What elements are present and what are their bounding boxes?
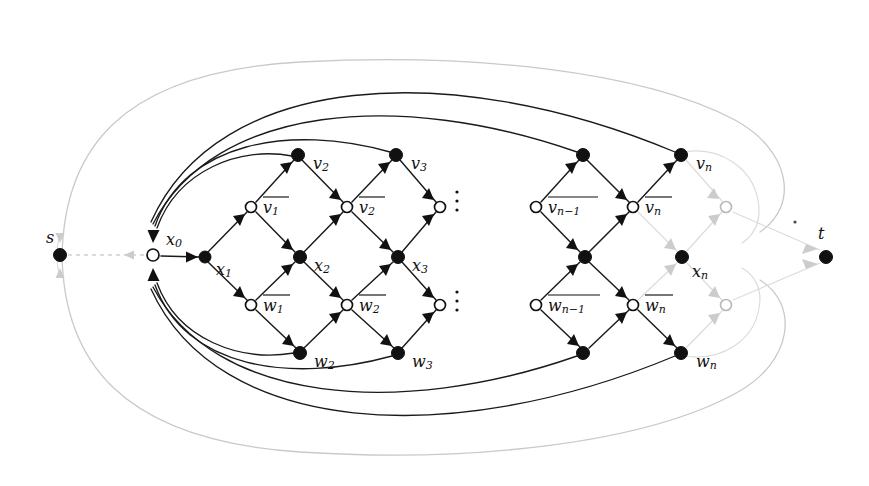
label-wbar1: w1 [263,296,284,317]
stray-dot-mark [793,220,796,223]
label-vbarn: vn [645,198,661,219]
node-vbar1[interactable] [246,202,257,213]
overline-group [263,197,673,295]
node-w-n-minus-1[interactable] [577,347,590,360]
arrowhead-vtail-from-xn [708,214,720,226]
node-wbar-n-minus-1[interactable] [531,300,542,311]
label-v3: v3 [411,154,427,175]
arrowhead-x0-top [148,230,160,243]
labels-group: s x0 x1 v1 w1 v2 x2 w2 [46,154,825,373]
node-x-n-minus-1[interactable] [579,251,592,264]
nodes-group [54,149,833,360]
node-v-n-minus-1[interactable] [577,149,590,162]
arrowhead-vtail-from-vn [707,188,719,199]
node-wbar1[interactable] [246,300,257,311]
arc-w2-to-x0 [157,283,294,355]
node-w-tail[interactable] [721,300,732,311]
edge-vtail-to-t [733,212,820,250]
label-x3: x3 [412,256,428,277]
node-s[interactable] [54,249,67,262]
node-x1[interactable] [199,251,211,263]
label-x1: x1 [216,260,232,281]
label-xn: xn [692,262,708,283]
label-x2: x2 [314,256,330,277]
node-wbar2[interactable] [342,300,353,311]
node-x0[interactable] [147,249,159,261]
node-vbar-n-minus-1[interactable] [531,202,542,213]
label-vbar2: v2 [359,198,375,219]
label-wbar2: w2 [359,296,380,317]
node-v3[interactable] [390,149,403,162]
node-v-tail[interactable] [721,202,732,213]
node-vbar3[interactable] [435,202,446,213]
figure-container: s x0 x1 v1 w1 v2 x2 w2 [0,0,869,486]
arrowhead-vbar3-from-v3 [422,188,434,200]
faint-tail-edges [638,160,820,348]
node-x2[interactable] [294,251,307,264]
envelope-link-wn [684,268,760,357]
ellipsis-upper [455,190,458,211]
node-wbar3[interactable] [435,300,446,311]
node-wbarn[interactable] [628,300,639,311]
lattice-edges-dark [208,160,677,348]
ellipsis-lower [455,290,458,311]
arrowhead-s-inbound [124,251,134,260]
arrowhead-wbar3-from-w3 [422,312,434,324]
arrowhead-w3-from-wbar2 [380,334,392,346]
node-w2[interactable] [294,347,307,360]
label-v2: v2 [313,154,329,175]
label-t: t [818,224,825,243]
label-x0: x0 [166,230,182,251]
node-vbar2[interactable] [342,202,353,213]
label-wbar-n-minus-1: wn−1 [548,296,585,317]
source-link-group [56,233,146,278]
vertical-ellipsis-group [455,190,796,311]
label-s: s [46,228,54,247]
node-v2[interactable] [292,149,305,162]
label-w2: w2 [314,352,335,373]
label-vbar-n-minus-1: vn−1 [548,198,580,219]
arrowhead-wbar3-from-x3 [422,286,434,298]
node-vbarn[interactable] [628,202,639,213]
arrowhead-x1-inbound [186,252,198,263]
label-w3: w3 [412,352,433,373]
node-vn[interactable] [675,149,688,162]
node-wn[interactable] [675,347,688,360]
arrowhead-x0-bottom [148,268,160,281]
edge-x0-x1-group [161,252,200,263]
node-x3[interactable] [392,251,405,264]
arrowhead-vbar3-from-x3 [422,214,434,226]
node-xn[interactable] [676,251,689,264]
node-w3[interactable] [392,347,405,360]
arrowhead-vnm1-from-vbarnm1 [565,162,577,174]
arrowhead-v2-from-vbar1 [280,162,292,174]
node-t[interactable] [820,251,833,264]
label-vbar1: v1 [263,198,279,219]
label-wbarn: wn [645,296,666,317]
graph-canvas: s x0 x1 v1 w1 v2 x2 w2 [0,0,869,486]
label-vn: vn [696,154,712,175]
